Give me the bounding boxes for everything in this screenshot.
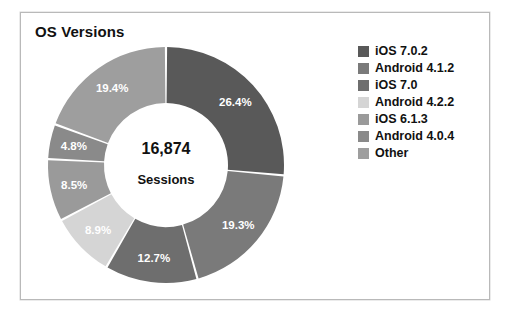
legend-item-label: Other xyxy=(375,147,408,160)
legend-item[interactable]: Other xyxy=(358,145,483,162)
donut-slice[interactable] xyxy=(56,47,166,143)
donut-slice-label: 19.4% xyxy=(96,82,129,94)
legend-swatch-icon xyxy=(358,63,369,74)
donut-slice-label: 12.7% xyxy=(138,252,171,264)
legend-item-label: iOS 7.0 xyxy=(375,79,417,92)
legend-item[interactable]: iOS 7.0.2 xyxy=(358,43,483,60)
legend-item[interactable]: iOS 6.1.3 xyxy=(358,111,483,128)
legend-item[interactable]: Android 4.2.2 xyxy=(358,94,483,111)
donut-chart: 26.4%19.3%12.7%8.9%8.5%4.8%19.4% 16,874 … xyxy=(43,42,289,288)
legend-item-label: Android 4.1.2 xyxy=(375,62,454,75)
legend-item-label: iOS 6.1.3 xyxy=(375,113,428,126)
legend-swatch-icon xyxy=(358,148,369,159)
donut-chart-svg: 26.4%19.3%12.7%8.9%8.5%4.8%19.4% 16,874 … xyxy=(43,42,289,288)
legend-swatch-icon xyxy=(358,46,369,57)
legend-swatch-icon xyxy=(358,114,369,125)
page-title: OS Versions xyxy=(35,23,124,40)
legend-item-label: Android 4.0.4 xyxy=(375,130,454,143)
center-total-caption: Sessions xyxy=(137,172,194,187)
legend-swatch-icon xyxy=(358,97,369,108)
center-total-value: 16,874 xyxy=(142,140,191,157)
chart-legend: iOS 7.0.2Android 4.1.2iOS 7.0Android 4.2… xyxy=(358,43,483,162)
os-versions-chart-panel: OS Versions 26.4%19.3%12.7%8.9%8.5%4.8%1… xyxy=(20,12,490,300)
donut-slice-label: 8.9% xyxy=(85,224,111,236)
legend-item[interactable]: iOS 7.0 xyxy=(358,77,483,94)
legend-item[interactable]: Android 4.1.2 xyxy=(358,60,483,77)
legend-item-label: Android 4.2.2 xyxy=(375,96,454,109)
donut-slice-group xyxy=(48,47,284,283)
legend-item-label: iOS 7.0.2 xyxy=(375,45,428,58)
donut-slice-label: 19.3% xyxy=(222,219,255,231)
legend-item[interactable]: Android 4.0.4 xyxy=(358,128,483,145)
donut-slice-label: 4.8% xyxy=(61,140,87,152)
donut-slice-label: 26.4% xyxy=(219,96,252,108)
legend-swatch-icon xyxy=(358,80,369,91)
legend-swatch-icon xyxy=(358,131,369,142)
donut-slice-label: 8.5% xyxy=(61,179,87,191)
